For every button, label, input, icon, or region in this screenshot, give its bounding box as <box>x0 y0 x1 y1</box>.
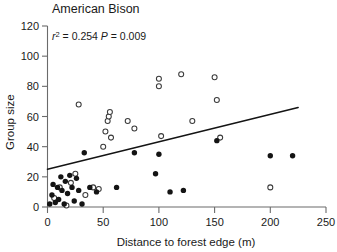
data-point-open <box>107 109 112 114</box>
y-tick-label: 20 <box>27 171 39 183</box>
data-point-filled <box>69 185 74 190</box>
data-point-filled <box>50 182 55 187</box>
data-point-filled <box>79 201 84 206</box>
data-point-filled <box>49 192 54 197</box>
x-tick-label: 100 <box>150 216 168 228</box>
r-squared-value: = 0.254 <box>63 30 98 42</box>
data-point-filled <box>56 197 61 202</box>
data-point-open <box>159 134 164 139</box>
data-point-filled <box>290 153 295 158</box>
data-point-open <box>212 75 217 80</box>
x-tick-label: 50 <box>97 216 109 228</box>
data-point-open <box>76 102 81 107</box>
y-axis-ticks: 020406080100120 <box>21 20 48 213</box>
data-point-filled <box>153 171 158 176</box>
data-point-open <box>214 97 219 102</box>
data-point-filled <box>82 150 87 155</box>
data-point-open <box>101 144 106 149</box>
scatter-plot-figure: American Bison r2 = 0.254 P = 0.009 0204… <box>0 0 337 252</box>
data-point-filled <box>59 188 64 193</box>
y-tick-label: 80 <box>27 80 39 92</box>
regression-line <box>48 107 299 169</box>
p-value: = 0.009 <box>111 30 146 42</box>
y-tick-label: 40 <box>27 141 39 153</box>
data-point-filled <box>214 138 219 143</box>
data-point-open <box>179 72 184 77</box>
data-point-filled <box>132 150 137 155</box>
statistics-annotation: r2 = 0.254 P = 0.009 <box>52 30 146 43</box>
y-tick-label: 120 <box>21 20 39 32</box>
data-point-filled <box>87 185 92 190</box>
regression-line-path <box>48 107 299 169</box>
x-tick-label: 250 <box>317 216 335 228</box>
x-tick-label: 150 <box>205 216 223 228</box>
axes-group: 020406080100120 050100150200250 <box>21 20 336 228</box>
data-point-filled <box>65 191 70 196</box>
data-point-filled <box>67 173 72 178</box>
data-point-open <box>83 192 88 197</box>
data-point-open <box>73 171 78 176</box>
data-point-filled <box>63 179 68 184</box>
chart-title: American Bison <box>52 2 140 16</box>
data-point-open <box>156 84 161 89</box>
y-tick-label: 100 <box>21 50 39 62</box>
y-axis-title: Group size <box>4 94 16 150</box>
data-point-filled <box>72 198 77 203</box>
data-point-filled <box>76 188 81 193</box>
data-point-open <box>103 129 108 134</box>
svg-text:r2 = 0.254 P = 0.009: r2 = 0.254 P = 0.009 <box>52 30 146 43</box>
chart-canvas: American Bison r2 = 0.254 P = 0.009 0204… <box>0 0 337 252</box>
data-point-open <box>125 119 130 124</box>
data-point-filled <box>47 201 52 206</box>
data-point-filled <box>181 188 186 193</box>
x-tick-label: 200 <box>261 216 279 228</box>
open-circle-data-points <box>52 72 273 208</box>
y-tick-label: 60 <box>27 111 39 123</box>
data-point-filled <box>58 174 63 179</box>
data-point-open <box>68 180 73 185</box>
x-axis-ticks: 050100150200250 <box>44 207 335 228</box>
data-point-open <box>108 135 113 140</box>
data-point-filled <box>55 185 60 190</box>
data-point-filled <box>156 152 161 157</box>
data-point-open <box>190 119 195 124</box>
p-symbol: P <box>101 30 108 42</box>
y-tick-label: 0 <box>33 201 39 213</box>
data-point-open <box>132 126 137 131</box>
data-point-open <box>156 76 161 81</box>
data-point-filled <box>94 189 99 194</box>
data-point-filled <box>167 189 172 194</box>
data-point-filled <box>268 153 273 158</box>
x-tick-label: 0 <box>44 216 50 228</box>
data-point-filled <box>74 176 79 181</box>
data-point-filled <box>62 201 67 206</box>
data-point-open <box>268 185 273 190</box>
data-point-filled <box>114 185 119 190</box>
x-axis-title: Distance to forest edge (m) <box>117 236 256 248</box>
